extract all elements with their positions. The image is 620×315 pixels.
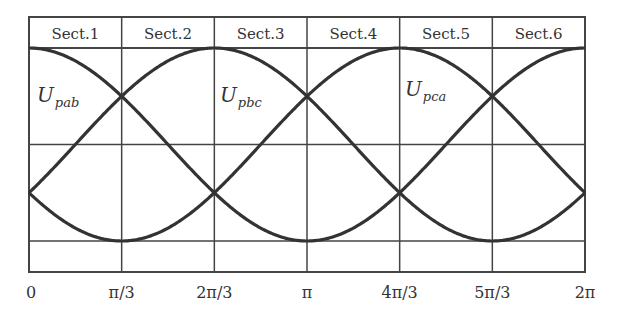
section-label: Sect.2: [144, 25, 192, 43]
curve-label-pca: Upca: [405, 77, 446, 104]
curve-label-pbc: Upbc: [220, 83, 263, 110]
x-tick-label: π/3: [109, 283, 135, 302]
x-tick-label: 0: [26, 283, 36, 302]
curve-labels: UpabUpbcUpca: [37, 77, 446, 110]
x-tick-label: 5π/3: [474, 283, 510, 302]
section-label: Sect.6: [515, 25, 563, 43]
section-label: Sect.1: [51, 25, 99, 43]
section-label: Sect.3: [237, 25, 285, 43]
x-tick-label: 2π: [575, 283, 596, 302]
x-axis-tick-labels: 0π/32π/3π4π/35π/32π: [26, 283, 595, 302]
x-tick-label: 4π/3: [382, 283, 418, 302]
section-label: Sect.4: [329, 25, 377, 43]
chart-grid: [29, 17, 585, 272]
x-tick-label: π: [302, 283, 313, 302]
x-tick-label: 2π/3: [196, 283, 232, 302]
three-phase-voltage-chart: Sect.1Sect.2Sect.3Sect.4Sect.5Sect.6 Upa…: [0, 0, 620, 315]
section-label: Sect.5: [422, 25, 470, 43]
curve-label-pab: Upab: [37, 83, 79, 110]
